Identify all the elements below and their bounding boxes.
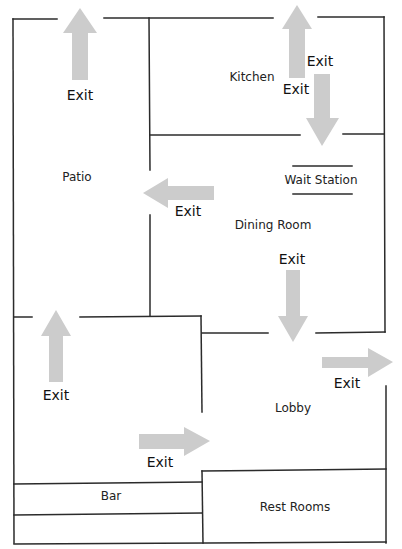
exit-label-dining-to-lobby: Exit	[279, 251, 306, 267]
room-label-wait-station: Wait Station	[285, 173, 358, 187]
arrow-down-icon	[278, 270, 308, 342]
exit-label-dining-to-patio: Exit	[175, 203, 202, 219]
room-label-dining-room: Dining Room	[235, 218, 312, 232]
arrow-down-icon	[306, 74, 339, 146]
wall	[14, 542, 386, 544]
exit-label-kitchen-top: Exit	[307, 53, 334, 69]
exit-label-patio-top: Exit	[67, 87, 94, 103]
room-label-patio: Patio	[62, 170, 91, 184]
wall	[80, 316, 201, 317]
exit-label-lobby-to-patio: Exit	[43, 387, 70, 403]
wall	[13, 19, 14, 543]
wall	[201, 316, 202, 412]
exit-label-lobby-right: Exit	[334, 375, 361, 391]
wall	[149, 18, 150, 170]
exit-label-lobby-bottom: Exit	[147, 454, 174, 470]
arrow-right-icon	[139, 427, 210, 456]
room-label-bar: Bar	[101, 489, 122, 503]
floor-plan	[0, 0, 402, 549]
wall	[14, 513, 202, 515]
wall	[384, 17, 385, 332]
arrow-up-icon	[63, 8, 97, 80]
wall	[202, 469, 386, 471]
arrow-right-icon	[322, 348, 393, 377]
room-label-lobby: Lobby	[275, 401, 311, 415]
room-label-kitchen: Kitchen	[229, 70, 274, 84]
exit-label-kitchen-to-dining: Exit	[283, 81, 310, 97]
wall	[316, 332, 385, 333]
arrow-up-icon	[41, 310, 71, 382]
room-label-rest-rooms: Rest Rooms	[260, 500, 330, 514]
wall	[14, 482, 202, 484]
